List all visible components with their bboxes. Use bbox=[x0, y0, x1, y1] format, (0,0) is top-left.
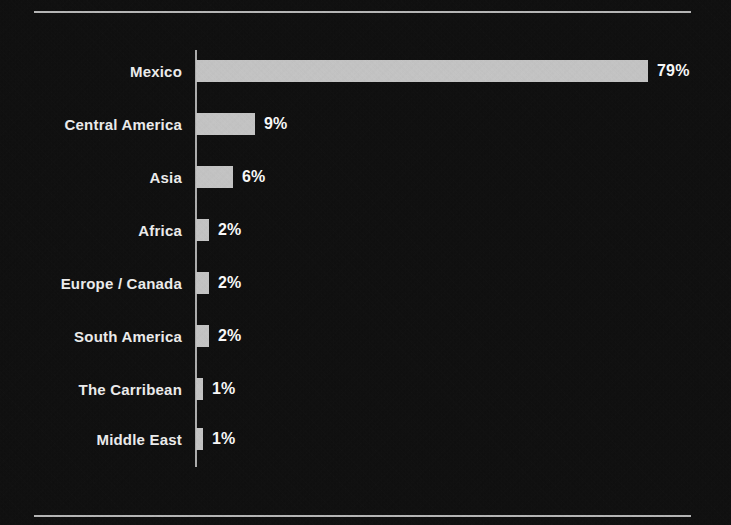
bar-value-label: 2% bbox=[218, 327, 242, 345]
bar-value-label: 9% bbox=[264, 115, 288, 133]
bar-value-label: 79% bbox=[657, 62, 690, 80]
category-label: Middle East bbox=[0, 431, 182, 448]
bar-row: Asia6% bbox=[0, 166, 731, 188]
bar bbox=[196, 378, 203, 400]
bar-value-label: 2% bbox=[218, 221, 242, 239]
bar-value-label: 2% bbox=[218, 274, 242, 292]
category-label: Asia bbox=[0, 169, 182, 186]
bar-row: The Carribean1% bbox=[0, 378, 731, 400]
category-label: Africa bbox=[0, 222, 182, 239]
category-label: South America bbox=[0, 328, 182, 345]
bar-row: Mexico79% bbox=[0, 60, 731, 82]
category-label: Europe / Canada bbox=[0, 275, 182, 292]
category-label: Central America bbox=[0, 116, 182, 133]
bar-value-label: 1% bbox=[212, 380, 236, 398]
plot-area: Mexico79%Central America9%Asia6%Africa2%… bbox=[0, 0, 731, 525]
bar bbox=[196, 60, 648, 82]
bar bbox=[196, 428, 203, 450]
bar-value-label: 1% bbox=[212, 430, 236, 448]
bar-row: Europe / Canada2% bbox=[0, 272, 731, 294]
bar-chart-figure: Mexico79%Central America9%Asia6%Africa2%… bbox=[0, 0, 731, 525]
category-label: Mexico bbox=[0, 63, 182, 80]
bar bbox=[196, 166, 233, 188]
bar-row: South America2% bbox=[0, 325, 731, 347]
bar bbox=[196, 325, 209, 347]
bar-row: Middle East1% bbox=[0, 428, 731, 450]
category-label: The Carribean bbox=[0, 381, 182, 398]
bar bbox=[196, 272, 209, 294]
bar-value-label: 6% bbox=[242, 168, 266, 186]
bar bbox=[196, 219, 209, 241]
bottom-divider-rule bbox=[34, 515, 691, 517]
bar bbox=[196, 113, 255, 135]
bar-row: Central America9% bbox=[0, 113, 731, 135]
bar-row: Africa2% bbox=[0, 219, 731, 241]
